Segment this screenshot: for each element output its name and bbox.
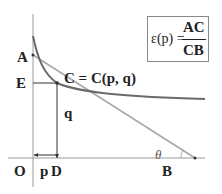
- label-O: O: [14, 163, 26, 179]
- label-A: A: [17, 49, 28, 65]
- formula-numerator: AC: [183, 19, 205, 36]
- label-q: q: [64, 105, 73, 121]
- elasticity-formula-box: ε(p) = AC CB: [147, 16, 209, 62]
- label-E: E: [16, 75, 26, 91]
- label-p: p: [40, 163, 48, 179]
- q-arrow-head: [55, 154, 59, 158]
- label-D: D: [51, 163, 62, 179]
- label-B: B: [162, 163, 172, 179]
- formula-denominator: CB: [183, 42, 204, 59]
- label-C: C = C(p, q): [64, 70, 136, 87]
- point-A: [32, 54, 35, 57]
- theta-arc: [181, 150, 183, 158]
- formula-lhs: ε(p) =: [151, 31, 185, 47]
- point-B: [194, 157, 197, 160]
- p-arrow-head-left: [34, 153, 38, 157]
- fraction-bar: [182, 39, 206, 40]
- label-theta: θ: [155, 147, 162, 162]
- point-C: [55, 81, 59, 85]
